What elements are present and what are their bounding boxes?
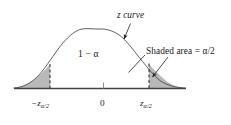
central-area-label: 1 − α xyxy=(78,49,99,59)
z-curve-label: z curve xyxy=(117,11,144,20)
right-critical-value-subscript: α/2 xyxy=(144,103,152,109)
shaded-area-left-annotation-arrow xyxy=(129,55,146,73)
shaded-area-label: Shaded area = α/2 xyxy=(146,47,215,56)
left-critical-value-base: −z xyxy=(31,98,41,108)
right-critical-value-label: zα/2 xyxy=(140,99,152,109)
z-curve-annotation-arrow xyxy=(124,24,131,40)
central-area-label-text: 1 − α xyxy=(78,48,99,59)
z-curve-figure: z curve 1 − α Shaded area = α/2 −zα/2 0 … xyxy=(0,0,231,125)
shaded-area-label-text: Shaded area = α/2 xyxy=(146,46,215,56)
z-curve-label-text: z curve xyxy=(117,10,144,20)
zero-axis-label-text: 0 xyxy=(100,98,105,108)
left-critical-value-label: −zα/2 xyxy=(31,99,49,109)
shaded-area-right-annotation-arrow xyxy=(153,57,169,77)
left-critical-value-subscript: α/2 xyxy=(41,103,49,109)
zero-axis-label: 0 xyxy=(100,99,105,108)
